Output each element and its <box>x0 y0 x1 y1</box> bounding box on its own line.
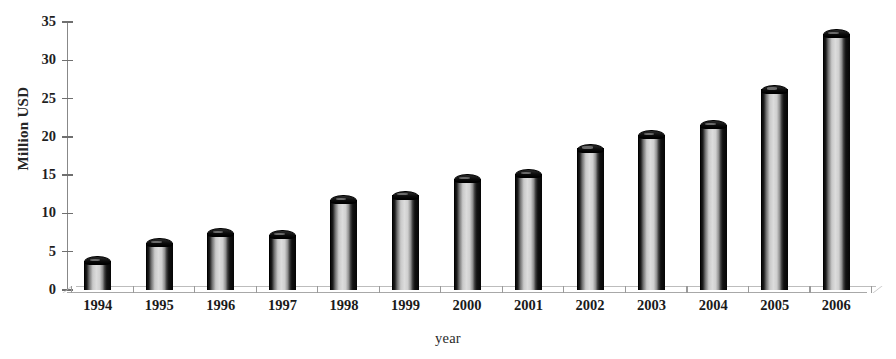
x-axis-tick <box>379 286 380 293</box>
bar-top-highlight <box>582 146 593 148</box>
bar-top-highlight <box>705 123 716 125</box>
x-axis-label-1997: 1997 <box>251 298 313 314</box>
bar-body <box>638 135 665 290</box>
bar-body <box>146 243 173 290</box>
x-axis-tick <box>625 286 626 293</box>
y-axis-tick-label: 10 <box>20 205 56 220</box>
bar-top-highlight <box>213 231 224 233</box>
bar-1998 <box>330 200 357 290</box>
x-axis-label-2006: 2006 <box>805 298 867 314</box>
bar-2001 <box>515 174 542 290</box>
bar-top-face <box>84 256 111 265</box>
bar-1995 <box>146 243 173 290</box>
y-axis-tick-label: 0 <box>20 282 56 297</box>
bar-top-face <box>207 228 234 237</box>
x-axis-tick <box>194 286 195 293</box>
x-axis-tick <box>133 286 134 293</box>
x-axis-label-1995: 1995 <box>128 298 190 314</box>
bar-top-face <box>700 120 727 129</box>
bar-top-highlight <box>828 32 839 34</box>
bar-2003 <box>638 135 665 290</box>
bar-top-highlight <box>151 241 162 243</box>
bar-top-face <box>823 29 850 38</box>
x-axis-title: year <box>0 330 896 347</box>
x-axis-label-2005: 2005 <box>744 298 806 314</box>
x-axis-label-2003: 2003 <box>621 298 683 314</box>
y-axis-tick-label: 5 <box>20 244 56 259</box>
bar-body <box>515 174 542 290</box>
bar-chart: Million USD 05101520253035 1994199519961… <box>0 0 896 359</box>
x-axis-tick <box>502 286 503 293</box>
bar-top-face <box>577 144 604 153</box>
x-axis-label-2000: 2000 <box>436 298 498 314</box>
bar-top-face <box>454 174 481 183</box>
x-axis-tick <box>317 286 318 293</box>
x-axis-tick <box>809 286 810 293</box>
bar-top-face <box>392 191 419 200</box>
x-axis-label-2002: 2002 <box>559 298 621 314</box>
bar-1994 <box>84 261 111 290</box>
bar-2006 <box>823 34 850 291</box>
bar-top-highlight <box>274 233 285 235</box>
bar-top-face <box>269 230 296 239</box>
bar-top-highlight <box>90 259 101 261</box>
x-axis-tick <box>71 286 72 293</box>
x-axis-tick <box>686 286 687 293</box>
bar-body <box>207 233 234 290</box>
x-axis-label-1994: 1994 <box>67 298 129 314</box>
y-axis-tick-label: 25 <box>20 91 56 106</box>
bar-1997 <box>269 235 296 290</box>
bar-body <box>330 200 357 290</box>
bar-body <box>761 89 788 290</box>
bar-2005 <box>761 89 788 290</box>
bar-top-face <box>761 85 788 94</box>
bar-top-highlight <box>397 193 408 195</box>
bar-top-highlight <box>644 133 655 135</box>
bar-2002 <box>577 148 604 290</box>
bar-top-highlight <box>521 172 532 174</box>
bar-top-highlight <box>336 198 347 200</box>
bar-top-highlight <box>459 177 470 179</box>
bar-top-highlight <box>767 87 778 89</box>
bar-top-face <box>515 169 542 178</box>
bar-2004 <box>700 125 727 290</box>
x-axis-tick <box>871 286 872 293</box>
y-axis-tick-label: 35 <box>20 14 56 29</box>
bar-body <box>269 235 296 290</box>
x-axis-label-1999: 1999 <box>374 298 436 314</box>
plot-area <box>67 22 877 290</box>
y-axis-tick-label: 15 <box>20 167 56 182</box>
bar-body <box>84 261 111 290</box>
x-axis-label-1998: 1998 <box>313 298 375 314</box>
bar-body <box>823 34 850 291</box>
x-axis-tick <box>256 286 257 293</box>
bar-top-face <box>638 130 665 139</box>
bar-1996 <box>207 233 234 290</box>
bar-2000 <box>454 179 481 290</box>
bar-1999 <box>392 195 419 290</box>
x-axis-label-2001: 2001 <box>498 298 560 314</box>
x-axis-tick <box>563 286 564 293</box>
x-axis-label-2004: 2004 <box>682 298 744 314</box>
y-axis-tick-label: 30 <box>20 52 56 67</box>
bar-top-face <box>146 238 173 247</box>
x-axis-tick <box>440 286 441 293</box>
x-axis-label-1996: 1996 <box>190 298 252 314</box>
x-axis-tick <box>748 286 749 293</box>
bar-top-face <box>330 195 357 204</box>
bar-body <box>454 179 481 290</box>
y-axis-tick-label: 20 <box>20 129 56 144</box>
bar-body <box>392 195 419 290</box>
bar-body <box>577 148 604 290</box>
bar-body <box>700 125 727 290</box>
